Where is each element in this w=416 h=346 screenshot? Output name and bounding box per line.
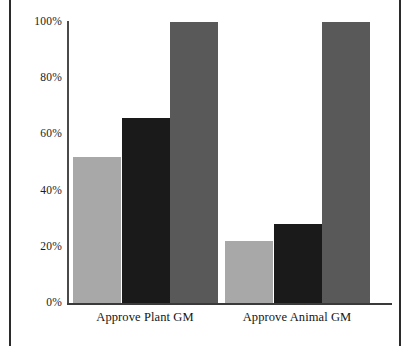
y-axis-tick-label: 100% — [34, 16, 62, 28]
x-axis-group-label: Approve Plant GM — [96, 311, 193, 324]
y-axis-tick-label: 0% — [46, 297, 62, 309]
y-axis-tick-label: 40% — [40, 185, 62, 197]
bar-animal-2 — [274, 224, 322, 303]
bar-group-bars — [225, 22, 369, 303]
y-axis-tick-label: 80% — [40, 72, 62, 84]
x-axis-line — [67, 303, 392, 305]
bar-plant-2 — [122, 118, 170, 303]
x-axis-group-label: Approve Animal GM — [243, 311, 352, 324]
page-rule-right — [399, 0, 401, 346]
bar-plant-3 — [170, 22, 218, 303]
bar-plant-1 — [73, 157, 121, 303]
page-rule-left — [9, 0, 11, 346]
y-axis-tick-label: 20% — [40, 241, 62, 253]
plot-area: 100%80%60%40%20%0% Approve Plant GMAppro… — [68, 22, 390, 303]
y-axis-tick-label: 60% — [40, 129, 62, 141]
bar-chart-figure: 100%80%60%40%20%0% Approve Plant GMAppro… — [0, 0, 416, 346]
bar-group-bars — [73, 22, 217, 303]
bar-group: Approve Plant GM — [73, 22, 217, 303]
bar-group: Approve Animal GM — [225, 22, 369, 303]
bar-animal-1 — [225, 241, 273, 303]
bar-animal-3 — [322, 22, 370, 303]
